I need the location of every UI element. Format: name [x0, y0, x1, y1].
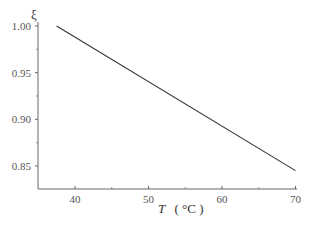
- x-tick-label: 50: [143, 193, 155, 205]
- chart: ξ 0.850.900.951.00 40506070 T ( °C ): [0, 0, 313, 229]
- data-line: [57, 26, 296, 171]
- y-tick-label: 0.90: [12, 113, 32, 125]
- x-axis-label: T ( °C ): [158, 201, 204, 216]
- x-tick-label: 60: [217, 193, 229, 205]
- y-tick-label: 1.00: [12, 20, 32, 32]
- y-axis-label: ξ: [31, 7, 37, 22]
- x-tick-label: 70: [290, 193, 302, 205]
- y-tick-label: 0.85: [12, 160, 32, 172]
- y-ticks: 0.850.900.951.00: [12, 20, 38, 172]
- x-tick-label: 40: [70, 193, 82, 205]
- y-tick-label: 0.95: [12, 67, 32, 79]
- axes: [38, 22, 297, 189]
